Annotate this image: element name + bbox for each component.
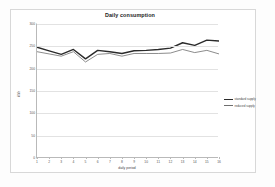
gridline — [37, 136, 218, 137]
gridline — [37, 69, 218, 70]
x-tick-mark — [207, 157, 208, 159]
chart-title: Daily consumption — [30, 12, 230, 19]
y-tick-mark — [36, 46, 38, 47]
y-tick-mark — [36, 68, 38, 69]
x-tick-label: 11 — [157, 160, 160, 164]
gridline — [37, 24, 218, 25]
gridline — [37, 46, 218, 47]
y-tick-label: 100 — [29, 111, 35, 115]
x-tick-label: 3 — [60, 160, 62, 164]
x-tick-mark — [86, 157, 87, 159]
y-tick-mark — [36, 135, 38, 136]
x-tick-mark — [134, 157, 135, 159]
x-tick-label: 14 — [193, 160, 197, 164]
x-tick-mark — [183, 157, 184, 159]
x-tick-label: 6 — [97, 160, 99, 164]
x-tick-label: 2 — [48, 160, 50, 164]
chart-legend: standard supplyreduced supply — [224, 97, 268, 110]
x-tick-label: 10 — [144, 160, 148, 164]
x-tick-mark — [61, 157, 62, 159]
y-tick-mark — [36, 113, 38, 114]
x-axis-title: daily period — [36, 166, 218, 170]
x-tick-mark — [110, 157, 111, 159]
x-tick-mark — [98, 157, 99, 159]
plot-area: 050100150200250300 123456789101112131415… — [36, 24, 218, 158]
y-tick-label: 50 — [31, 134, 35, 138]
x-tick-mark — [195, 157, 196, 159]
x-tick-mark — [146, 157, 147, 159]
x-tick-label: 4 — [72, 160, 74, 164]
x-tick-label: 5 — [85, 160, 87, 164]
y-tick-mark — [36, 91, 38, 92]
x-tick-label: 12 — [169, 160, 173, 164]
x-tick-mark — [37, 157, 38, 159]
x-tick-label: 16 — [217, 160, 221, 164]
x-tick-mark — [170, 157, 171, 159]
x-tick-label: 8 — [121, 160, 123, 164]
gridline — [37, 91, 218, 92]
x-tick-label: 15 — [205, 160, 209, 164]
x-tick-mark — [49, 157, 50, 159]
y-tick-label: 300 — [29, 22, 35, 26]
x-tick-mark — [122, 157, 123, 159]
x-tick-label: 1 — [36, 160, 38, 164]
x-tick-label: 13 — [181, 160, 185, 164]
x-tick-label: 9 — [133, 160, 135, 164]
legend-label: reduced supply — [235, 104, 255, 108]
x-tick-mark — [73, 157, 74, 159]
y-tick-label: 200 — [29, 67, 35, 71]
y-axis-title: kWh — [17, 90, 21, 97]
legend-item[interactable]: standard supply — [224, 97, 268, 101]
x-tick-mark — [158, 157, 159, 159]
legend-line-swatch — [224, 99, 233, 100]
x-tick-label: 7 — [109, 160, 111, 164]
gridline — [37, 113, 218, 114]
legend-label: standard supply — [235, 97, 256, 101]
y-tick-mark — [36, 24, 38, 25]
legend-item[interactable]: reduced supply — [224, 104, 268, 108]
y-tick-label: 250 — [29, 44, 35, 48]
chart-page: Daily consumption kWh 050100150200250300… — [0, 0, 275, 187]
legend-line-swatch — [224, 105, 233, 106]
series-line — [37, 40, 219, 59]
series-line — [37, 49, 219, 62]
y-tick-label: 150 — [29, 89, 35, 93]
x-tick-mark — [219, 157, 220, 159]
